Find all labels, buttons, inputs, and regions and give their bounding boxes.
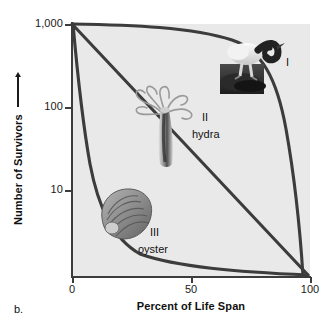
y-axis-title-text: Number of Survivors (12, 114, 24, 225)
x-axis-title: Percent of Life Span (72, 300, 310, 312)
y-tick-label-100: 100 (44, 100, 63, 112)
x-tick-label-0: 0 (52, 283, 92, 295)
curve-label-I: I (286, 56, 289, 68)
survivorship-curve-figure: I II hydra III oyster 1,000 100 10 0 50 … (0, 0, 334, 325)
y-tick-label-1000: 1,000 (35, 17, 63, 29)
y-axis-line (71, 22, 73, 278)
curve-species-hydra: hydra (192, 128, 220, 140)
x-tick-label-100: 100 (290, 283, 330, 295)
curve-label-III: III (150, 226, 159, 238)
bird-photo (220, 32, 286, 94)
y-tick-100 (65, 107, 71, 109)
x-tick-label-50: 50 (171, 283, 211, 295)
curve-species-oyster: oyster (138, 243, 168, 255)
hydra-photo (127, 82, 207, 172)
figure-letter: b. (14, 303, 23, 315)
y-tick-1000 (65, 24, 71, 26)
curve-label-II: II (202, 111, 208, 123)
y-tick-10 (65, 190, 71, 192)
up-arrow-icon (15, 72, 21, 107)
y-tick-label-10: 10 (51, 183, 63, 195)
plot-area: I II hydra III oyster (72, 24, 310, 276)
y-axis-title: Number of Survivors (8, 65, 28, 225)
oyster-photo (94, 184, 156, 244)
